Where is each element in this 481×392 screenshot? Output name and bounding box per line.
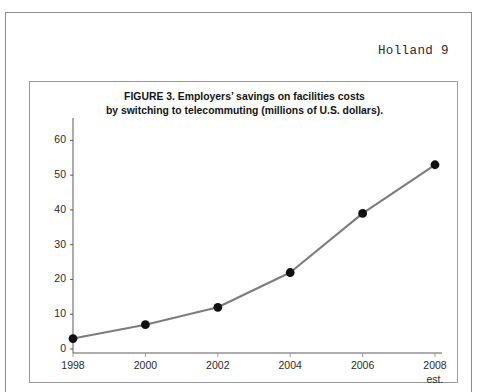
x-axis-tick-label: 2000 bbox=[115, 359, 175, 371]
data-point-marker bbox=[358, 209, 367, 218]
data-point-marker bbox=[141, 320, 150, 329]
y-axis-tick-label: 50 bbox=[38, 168, 66, 180]
y-axis-tick-label: 0 bbox=[38, 342, 66, 354]
series-line bbox=[73, 165, 435, 339]
chart-axes bbox=[73, 118, 442, 353]
x-axis-tick-label-year: 2000 bbox=[134, 359, 157, 371]
x-axis-tick-label: 2002 bbox=[188, 359, 248, 371]
x-axis-tick-label: 1998 bbox=[43, 359, 103, 371]
y-axis-tick-label: 40 bbox=[38, 203, 66, 215]
plot-area: 0102030405060199820002002200420062008est… bbox=[30, 82, 459, 384]
x-axis-tick-label-year: 2008 bbox=[423, 359, 446, 371]
x-axis-tick-label: 2004 bbox=[260, 359, 320, 371]
x-axis-tick-label: 2008est. bbox=[405, 359, 465, 385]
figure-box: FIGURE 3. Employers’ savings on faciliti… bbox=[29, 81, 458, 383]
y-axis-tick-label: 20 bbox=[38, 272, 66, 284]
page-sheet: Holland 9 FIGURE 3. Employers’ savings o… bbox=[5, 12, 472, 392]
y-axis-tick-label: 10 bbox=[38, 307, 66, 319]
x-axis-tick-label: 2006 bbox=[333, 359, 393, 371]
y-axis-tick-label: 30 bbox=[38, 238, 66, 250]
running-head: Holland 9 bbox=[378, 44, 449, 58]
series-markers bbox=[69, 160, 440, 343]
x-axis-tick-label-year: 1998 bbox=[61, 359, 84, 371]
x-axis-tick-label-year: 2006 bbox=[351, 359, 374, 371]
data-point-marker bbox=[286, 268, 295, 277]
data-point-marker bbox=[69, 334, 78, 343]
x-axis-ticks bbox=[73, 353, 435, 357]
x-axis-tick-label-year: 2004 bbox=[279, 359, 302, 371]
y-axis-tick-label: 60 bbox=[38, 133, 66, 145]
data-point-marker bbox=[431, 160, 440, 169]
x-axis-tick-label-year: 2002 bbox=[206, 359, 229, 371]
line-chart-svg bbox=[30, 82, 459, 384]
data-point-marker bbox=[213, 303, 222, 312]
x-axis-tick-label-note: est. bbox=[405, 373, 465, 385]
